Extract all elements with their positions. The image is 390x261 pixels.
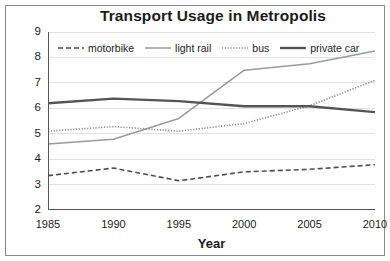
- legend-label: motorbike: [88, 43, 134, 54]
- legend-label: private car: [310, 43, 359, 54]
- legend-label: bus: [252, 43, 269, 54]
- chart-legend: motorbikelight railbusprivate car: [58, 43, 359, 54]
- chart-figure: Transport Usage in Metropolis Millions o…: [0, 0, 390, 261]
- x-axis-label: Year: [48, 236, 375, 251]
- legend-item-light-rail[interactable]: light rail: [145, 43, 211, 54]
- series-line-light-rail: [48, 51, 375, 144]
- plot-area: [48, 32, 375, 210]
- legend-swatch-solid-icon: [145, 44, 171, 52]
- legend-label: light rail: [175, 43, 211, 54]
- series-line-private-car: [48, 99, 375, 112]
- legend-swatch-dashed-icon: [58, 44, 84, 52]
- legend-item-motorbike[interactable]: motorbike: [58, 43, 134, 54]
- series-line-bus: [48, 80, 375, 131]
- legend-item-private-car[interactable]: private car: [280, 43, 359, 54]
- series-line-motorbike: [48, 165, 375, 181]
- plot-svg: [48, 32, 375, 210]
- chart-title: Transport Usage in Metropolis: [48, 7, 378, 25]
- legend-swatch-solid-thick-icon: [280, 44, 306, 52]
- legend-swatch-dotted-icon: [222, 44, 248, 52]
- legend-item-bus[interactable]: bus: [222, 43, 269, 54]
